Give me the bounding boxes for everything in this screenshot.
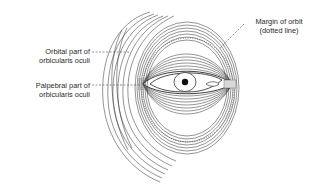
label-palpebral-line2: orbicularis oculi xyxy=(18,91,90,100)
eye xyxy=(150,73,222,93)
leader-margin xyxy=(220,24,244,48)
label-orbital-line2: orbicularis oculi xyxy=(22,57,90,66)
label-palpebral-part: Palpebral part of orbicularis oculi xyxy=(18,82,90,99)
orbital-fibers xyxy=(103,12,239,182)
label-margin-line2: (dotted line) xyxy=(246,27,312,36)
pupil xyxy=(182,79,188,85)
lateral-palpebral-raphe xyxy=(224,80,236,88)
label-margin-of-orbit: Margin of orbit (dotted line) xyxy=(246,18,312,35)
orbicularis-oculi-diagram: Orbital part of orbicularis oculi Palpeb… xyxy=(0,0,323,196)
medial-palpebral-ligament xyxy=(138,78,146,90)
label-orbital-part: Orbital part of orbicularis oculi xyxy=(22,48,90,65)
